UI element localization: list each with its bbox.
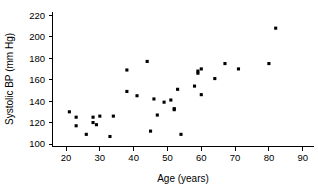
scatter-plot-figure: 100120140160180200220 2030405060708090 A… [0,0,318,191]
data-point [98,115,101,118]
data-point [193,85,196,88]
y-tick-label-200: 200 [29,31,45,42]
data-point [179,133,182,136]
data-point [75,124,78,127]
y-tick-label-160: 160 [29,74,45,85]
x-tick-label-70: 70 [230,152,241,163]
data-point [267,62,270,65]
data-point [146,60,149,63]
data-point [149,130,152,133]
y-tick-label-140: 140 [29,96,45,107]
plot-canvas: 100120140160180200220 2030405060708090 A… [0,0,318,191]
x-tick-label-80: 80 [264,152,275,163]
data-point [169,98,172,101]
data-point [68,110,71,113]
data-point [92,116,95,119]
data-point [274,27,277,30]
data-point [200,93,203,96]
x-tick-label-20: 20 [61,152,72,163]
data-point [92,121,95,124]
data-point [135,94,138,97]
data-point [75,116,78,119]
y-tick-label-220: 220 [29,10,45,21]
data-point [85,133,88,136]
data-point [176,88,179,91]
data-point [125,68,128,71]
x-tick-label-40: 40 [128,152,139,163]
data-point [152,97,155,100]
x-tick-label-50: 50 [162,152,173,163]
data-point [163,101,166,104]
data-point [112,115,115,118]
y-axis-title: Systolic BP (mm Hg) [4,33,15,125]
x-tick-label-90: 90 [297,152,308,163]
data-point [213,77,216,80]
x-axis-title: Age (years) [157,173,209,184]
data-point [156,113,159,116]
data-point [95,123,98,126]
data-point [108,135,111,138]
x-tick-label-30: 30 [95,152,106,163]
y-tick-label-180: 180 [29,53,45,64]
y-tick-label-100: 100 [29,138,45,149]
data-point [200,67,203,70]
data-point [173,108,176,111]
y-tick-label-120: 120 [29,117,45,128]
data-point [125,90,128,93]
data-point [223,62,226,65]
data-point [196,70,199,73]
x-tick-label-60: 60 [196,152,207,163]
data-point [237,67,240,70]
